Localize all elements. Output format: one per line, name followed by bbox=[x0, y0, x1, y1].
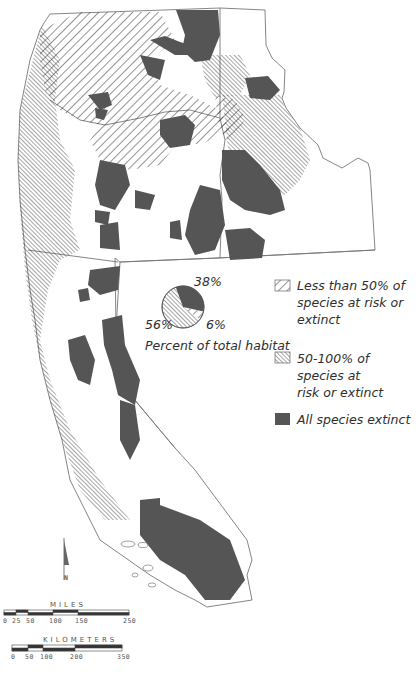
legend-item-all-extinct: All species extinct bbox=[297, 411, 410, 428]
miles-scale-bar bbox=[4, 610, 129, 615]
pie-label-38: 38% bbox=[194, 274, 222, 289]
km-scale-title: KILOMETERS bbox=[43, 636, 117, 644]
legend-item-less-than-50: Less than 50% of species at risk or exti… bbox=[297, 277, 405, 328]
miles-tick-25: 25 bbox=[12, 617, 21, 625]
pie-caption: Percent of total habitat bbox=[145, 338, 290, 353]
miles-tick-250: 250 bbox=[123, 617, 136, 625]
legend-item-50-to-100: 50-100% of species at risk or extinct bbox=[297, 350, 418, 401]
km-tick-0: 0 bbox=[11, 653, 15, 661]
miles-tick-100: 100 bbox=[49, 617, 62, 625]
miles-tick-50: 50 bbox=[26, 617, 35, 625]
miles-tick-150: 150 bbox=[75, 617, 88, 625]
km-scale-bar bbox=[12, 645, 122, 651]
km-tick-200: 200 bbox=[70, 653, 83, 661]
habitat-map bbox=[0, 0, 418, 674]
pie-label-6: 6% bbox=[206, 317, 226, 332]
miles-scale-title: MILES bbox=[50, 601, 86, 609]
north-label: N bbox=[64, 574, 68, 582]
pie-label-56: 56% bbox=[145, 317, 173, 332]
miles-tick-0: 0 bbox=[3, 617, 7, 625]
km-tick-100: 100 bbox=[40, 653, 53, 661]
km-tick-350: 350 bbox=[117, 653, 130, 661]
km-tick-50: 50 bbox=[25, 653, 34, 661]
